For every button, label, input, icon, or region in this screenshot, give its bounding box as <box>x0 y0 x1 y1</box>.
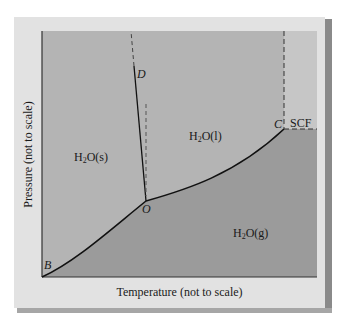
phase-diagram-plot <box>0 0 348 332</box>
point-label-b: B <box>44 258 51 273</box>
x-axis-label: Temperature (not to scale) <box>42 285 317 300</box>
scf-region <box>284 31 317 129</box>
region-label-gas: H2O(g) <box>233 226 268 241</box>
point-label-d: D <box>137 67 146 82</box>
region-label-scf: SCF <box>290 116 311 131</box>
y-axis-label: Pressure (not to scale) <box>21 85 36 225</box>
region-label-liquid: H2O(l) <box>189 129 222 144</box>
point-label-o: O <box>142 202 151 217</box>
point-label-c: C <box>274 117 282 132</box>
region-label-solid: H2O(s) <box>74 150 108 165</box>
